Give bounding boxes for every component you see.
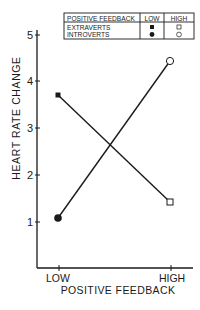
- legend-open-circle-icon: [177, 32, 182, 37]
- legend-header: POSITIVE FEEDBACK: [67, 15, 135, 22]
- x-axis-label: POSITIVE FEEDBACK: [61, 284, 176, 296]
- legend-filled-square-icon: [150, 25, 154, 29]
- y-tick-label-5: 5: [27, 29, 33, 41]
- y-tick-label-4: 4: [27, 75, 33, 87]
- introverts-high-marker: [166, 57, 173, 64]
- y-tick-label-2: 2: [27, 169, 33, 181]
- legend-filled-circle-icon: [150, 32, 155, 37]
- legend-row-extraverts: EXTRAVERTS: [67, 24, 111, 31]
- introverts-low-marker: [54, 214, 62, 222]
- y-tick-label-3: 3: [27, 122, 33, 134]
- legend-row-introverts: INTROVERTS: [67, 31, 110, 38]
- legend-open-square-icon: [177, 25, 181, 29]
- extraverts-low-marker: [56, 93, 61, 98]
- introverts-line: [58, 61, 170, 218]
- x-tick-label-high: HIGH: [159, 272, 185, 284]
- legend-col-high: HIGH: [171, 15, 188, 22]
- chart-canvas: 5 4 3 2 1 HEART RATE CHANGE LOW HIGH POS…: [0, 0, 200, 310]
- legend-table: POSITIVE FEEDBACK LOW HIGH EXTRAVERTS IN…: [64, 13, 194, 39]
- legend-col-low: LOW: [144, 15, 160, 22]
- y-axis-label: HEART RATE CHANGE: [10, 56, 22, 179]
- x-tick-label-low: LOW: [46, 272, 70, 284]
- extraverts-line: [58, 95, 170, 202]
- y-tick-label-1: 1: [27, 216, 33, 228]
- extraverts-high-marker: [167, 199, 173, 205]
